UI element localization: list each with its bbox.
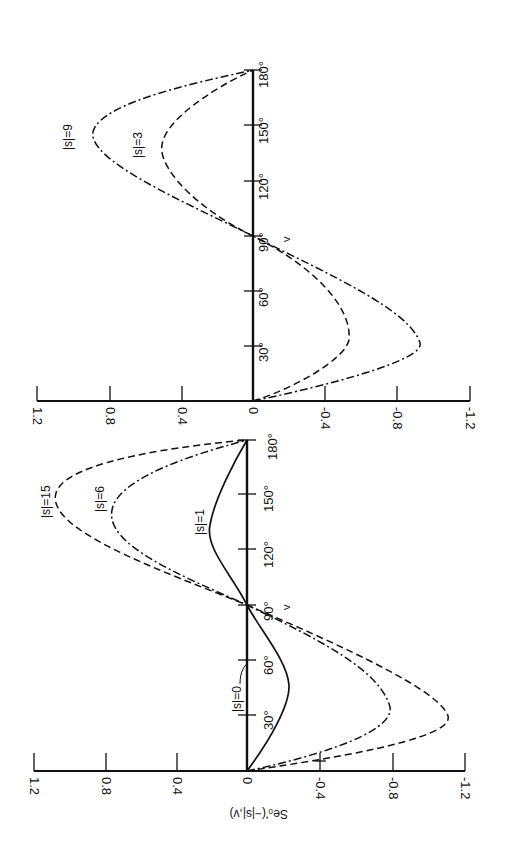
svg-text:1.2: 1.2 (30, 407, 45, 425)
bottom-v-tick-labels: 30° 60° 90° 120° 150° 180° v (261, 433, 292, 730)
svg-text:-1.2: -1.2 (458, 777, 473, 799)
svg-text:v: v (280, 236, 292, 242)
top-value-tick-labels: 1.2 0.8 0.4 0 -0.4 -0.8 -1.2 (30, 407, 478, 429)
svg-text:-0.4: -0.4 (313, 777, 328, 799)
svg-text:60°: 60° (261, 655, 276, 675)
chart-canvas: 1.2 0.8 0.4 0 -0.4 -0.8 -1.2 30° 60° 90°… (0, 0, 507, 862)
svg-text:0.8: 0.8 (99, 777, 114, 795)
svg-text:90°: 90° (256, 232, 271, 252)
svg-text:150°: 150° (261, 485, 276, 512)
top-v-tick-labels: 30° 60° 90° 120° 150° 180° v (256, 61, 292, 362)
svg-text:-0.8: -0.8 (386, 777, 401, 799)
svg-text:0: 0 (246, 407, 261, 414)
svg-text:120°: 120° (261, 541, 276, 568)
top-label-s9: |s|=9 (61, 124, 75, 150)
svg-text:0: 0 (240, 777, 255, 784)
svg-text:60°: 60° (256, 287, 271, 307)
svg-text:0.8: 0.8 (103, 407, 118, 425)
svg-text:v: v (280, 604, 292, 610)
svg-text:1.2: 1.2 (27, 777, 42, 795)
top-label-s3: |s|=3 (131, 132, 145, 158)
bottom-label-s1: |s|=1 (193, 509, 207, 535)
svg-text:120°: 120° (256, 173, 271, 200)
bottom-label-s6: |s|=6 (93, 486, 107, 512)
svg-text:30°: 30° (256, 342, 271, 362)
top-panel: 1.2 0.8 0.4 0 -0.4 -0.8 -1.2 30° 60° 90°… (30, 61, 478, 429)
svg-text:0.4: 0.4 (175, 407, 190, 425)
svg-text:180°: 180° (256, 61, 271, 88)
svg-text:90°: 90° (261, 601, 276, 621)
svg-text:30°: 30° (261, 710, 276, 730)
svg-text:-0.8: -0.8 (390, 407, 405, 429)
svg-text:0.4: 0.4 (170, 777, 185, 795)
bottom-label-s15: |s|=15 (39, 485, 53, 518)
bottom-panel: 1.2 0.8 0.4 0 -0.4 -0.8 -1.2 Se₀'(−|s|,v… (27, 433, 473, 821)
bottom-axis-title: Se₀'(−|s|,v) (229, 807, 288, 821)
bottom-value-tick-labels: 1.2 0.8 0.4 0 -0.4 -0.8 -1.2 (27, 777, 473, 799)
svg-text:180°: 180° (265, 433, 280, 460)
svg-text:-1.2: -1.2 (463, 407, 478, 429)
svg-text:150°: 150° (256, 117, 271, 144)
svg-text:-0.4: -0.4 (318, 407, 333, 429)
bottom-label-s0: |s|=0 (230, 686, 244, 712)
